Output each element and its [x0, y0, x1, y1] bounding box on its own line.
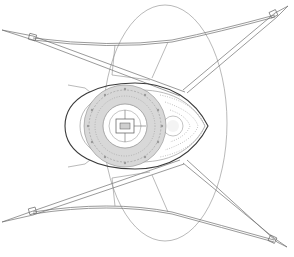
fin-upper	[68, 85, 90, 92]
leg-upper-right	[172, 6, 288, 93]
figure-canvas	[0, 0, 294, 257]
leg-lower-left	[2, 160, 184, 222]
leg-lower-right	[172, 160, 287, 247]
fin-lower	[68, 160, 90, 167]
lander-drawing	[0, 0, 294, 257]
